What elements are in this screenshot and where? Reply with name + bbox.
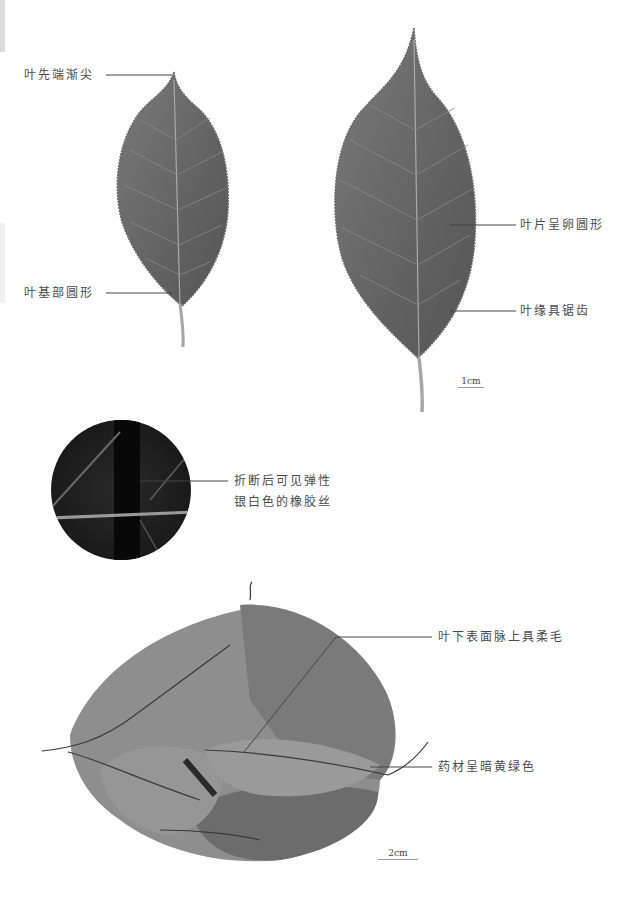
dried-leaf-cluster (42, 582, 428, 861)
label-leaf-margin: 叶缘具锯齿 (520, 302, 590, 320)
label-underside-hairs: 叶下表面脉上具柔毛 (438, 628, 564, 646)
label-break-line1: 折断后可见弹性 (234, 472, 332, 490)
label-break-line2: 银白色的橡胶丝 (234, 493, 332, 511)
scale-bar-1cm: 1cm (458, 376, 484, 388)
scale-bar-line (458, 387, 484, 388)
label-herb-color: 药材呈暗黄绿色 (438, 758, 536, 776)
label-leaf-apex: 叶先端渐尖 (24, 66, 94, 84)
small-leaf (117, 72, 228, 347)
magnified-cross-section (40, 415, 200, 565)
label-leaf-base: 叶基部圆形 (24, 284, 94, 302)
scale-bar-2cm: 2cm (378, 848, 418, 860)
scale-bar-label: 2cm (378, 848, 418, 858)
scale-bar-line (378, 859, 418, 860)
scale-bar-label: 1cm (458, 376, 484, 386)
label-leaf-blade-shape: 叶片呈卵圆形 (520, 216, 604, 234)
large-leaf (335, 28, 476, 412)
